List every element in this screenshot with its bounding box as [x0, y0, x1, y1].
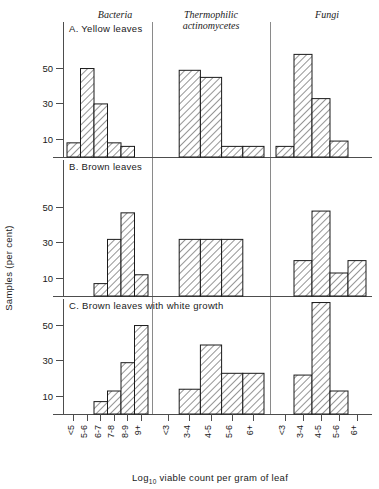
x-tick-label-2-4: 6+ [349, 425, 359, 435]
bar-C-bacteria-8-9 [121, 363, 135, 414]
column-header-1: Bacteria [98, 9, 132, 20]
bar-C-fungi-5-6 [330, 391, 348, 414]
bar-A-fungi-<3 [276, 146, 294, 157]
x-tick-label-1-3: 5-6 [224, 425, 234, 438]
y-axis-title: Samples (per cent) [3, 225, 14, 311]
bar-C-thermophilic-3-4 [179, 389, 200, 414]
x-tick-label-1-1: 3-4 [182, 425, 192, 438]
bar-B-thermophilic-4-5 [200, 239, 221, 296]
y-tick-label-B-50: 50 [42, 202, 53, 213]
x-tick-label-0-0: <5 [66, 425, 76, 435]
bar-A-bacteria-8-9 [121, 146, 135, 157]
bar-A-bacteria-<5 [67, 143, 81, 157]
bar-A-fungi-5-6 [330, 141, 348, 157]
x-tick-label-0-2: 6-7 [93, 425, 103, 438]
bar-B-bacteria-9+ [135, 275, 149, 296]
bar-C-bacteria-9+ [135, 326, 149, 414]
bar-B-fungi-4-5 [312, 211, 330, 296]
x-axis-title-subscript: 10 [149, 478, 157, 485]
bar-C-thermophilic-6+ [243, 373, 264, 414]
y-tick-label-C-30: 30 [42, 355, 53, 366]
bar-A-bacteria-7-8 [108, 143, 122, 157]
column-header-2-line2: actinomycetes [183, 20, 240, 31]
bar-A-thermophilic-4-5 [200, 77, 221, 157]
x-tick-label-2-2: 4-5 [313, 425, 323, 438]
bar-C-bacteria-6-7 [94, 402, 108, 414]
bar-B-thermophilic-5-6 [222, 239, 243, 296]
y-tick-label-A-50: 50 [42, 63, 53, 74]
x-tick-label-0-4: 8-9 [120, 425, 130, 438]
y-tick-label-C-10: 10 [42, 391, 53, 402]
x-axis-title-rest: viable count per gram of leaf [157, 472, 289, 483]
x-tick-label-0-3: 7-8 [106, 425, 116, 438]
bar-C-fungi-4-5 [312, 303, 330, 414]
y-tick-label-B-10: 10 [42, 273, 53, 284]
y-tick-label-C-50: 50 [42, 320, 53, 331]
bar-B-bacteria-6-7 [94, 284, 108, 296]
bar-C-fungi-3-4 [294, 375, 312, 414]
figure-root: BacteriaThermophilicactinomycetesFungi 1… [0, 0, 379, 489]
bar-A-thermophilic-5-6 [222, 146, 243, 157]
bar-A-thermophilic-6+ [243, 146, 264, 157]
bar-B-fungi-5-6 [330, 273, 348, 296]
bar-C-thermophilic-4-5 [200, 345, 221, 414]
bar-A-fungi-3-4 [294, 54, 312, 157]
histogram-figure: BacteriaThermophilicactinomycetesFungi 1… [0, 0, 379, 489]
x-tick-label-2-3: 5-6 [331, 425, 341, 438]
x-axis-title-main: Log [132, 472, 149, 483]
panel-title-A: A. Yellow leaves [69, 23, 142, 34]
x-tick-label-0-1: 5-6 [79, 425, 89, 438]
bar-B-fungi-3-4 [294, 261, 312, 296]
bar-B-bacteria-7-8 [108, 239, 122, 296]
bar-A-thermophilic-3-4 [179, 70, 200, 157]
x-tick-label-1-2: 4-5 [203, 425, 213, 438]
panel-title-B: B. Brown leaves [69, 161, 142, 172]
column-header-2: Thermophilic [184, 9, 238, 20]
x-tick-label-1-4: 6+ [245, 425, 255, 435]
x-tick-label-1-0: <3 [161, 425, 171, 435]
bar-A-bacteria-6-7 [94, 104, 108, 157]
x-tick-label-2-0: <3 [277, 425, 287, 435]
x-tick-label-2-1: 3-4 [295, 425, 305, 438]
bar-A-bacteria-5-6 [81, 69, 95, 157]
y-tick-label-A-30: 30 [42, 98, 53, 109]
x-tick-label-0-5: 9+ [133, 425, 143, 435]
bar-B-bacteria-8-9 [121, 213, 135, 296]
bar-C-bacteria-7-8 [108, 391, 122, 414]
y-tick-label-B-30: 30 [42, 237, 53, 248]
bar-A-fungi-4-5 [312, 99, 330, 157]
y-tick-label-A-10: 10 [42, 134, 53, 145]
panel-title-C: C. Brown leaves with white growth [69, 300, 224, 311]
bar-C-thermophilic-5-6 [222, 373, 243, 414]
column-header-3: Fungi [314, 9, 339, 20]
bar-B-fungi-6+ [348, 261, 366, 296]
bar-B-thermophilic-3-4 [179, 239, 200, 296]
